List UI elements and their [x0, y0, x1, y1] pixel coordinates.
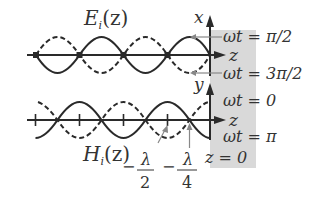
- quarter-wavelength-numerator: λ: [182, 150, 193, 169]
- upper-x-axis-arrow-icon: [206, 15, 214, 27]
- wavelength-annotations: − λ 2 − λ 4 z = 0: [122, 148, 247, 192]
- upper-x-axis-label: x: [194, 7, 204, 27]
- h-phase-bottom-label: ωt = π: [223, 127, 277, 146]
- half-wavelength-arrow-icon: [162, 125, 168, 133]
- standing-wave-diagram: Ei(z) x z ωt = π/2 ωt = 3π/2 Hi(z) y: [0, 0, 318, 198]
- quarter-wavelength-sign: −: [162, 157, 175, 176]
- half-wavelength-denominator: 2: [140, 173, 150, 192]
- e-phase-bottom-label: ωt = 3π/2: [223, 64, 302, 83]
- origin-label: z = 0: [204, 148, 247, 167]
- e-node-marker: [121, 52, 127, 58]
- half-wavelength-sign: −: [122, 157, 135, 176]
- e-node-marker: [165, 52, 171, 58]
- quarter-wavelength-denominator: 4: [182, 173, 192, 192]
- e-phase-top-label: ωt = π/2: [223, 27, 292, 46]
- e-node-marker: [33, 52, 39, 58]
- e-field-label: Ei(z): [83, 6, 128, 32]
- lower-y-axis-label: y: [193, 74, 204, 94]
- e-phase-top-arrow-icon: [190, 34, 196, 40]
- upper-plot-e-field: Ei(z) x z ωt = π/2 ωt = 3π/2: [27, 6, 302, 83]
- upper-z-axis-label: z: [228, 45, 239, 65]
- e-node-marker: [77, 52, 83, 58]
- half-wavelength-numerator: λ: [140, 150, 151, 169]
- h-phase-top-label: ωt = 0: [223, 91, 276, 110]
